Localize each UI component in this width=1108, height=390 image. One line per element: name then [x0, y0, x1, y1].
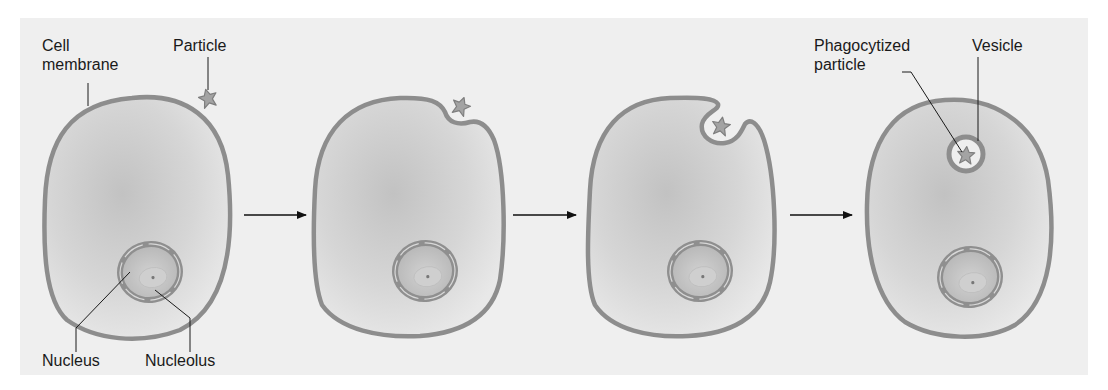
label-phagocytized-particle: Phagocytized particle: [814, 36, 910, 74]
cell-stage-3: [588, 98, 775, 337]
label-line: Cell: [42, 36, 118, 55]
label-nucleus: Nucleus: [42, 351, 100, 370]
particle-icon: [197, 87, 219, 109]
cell-stage-2: [314, 94, 504, 336]
phagocytosis-diagram: [0, 0, 1108, 390]
label-particle: Particle: [173, 36, 226, 55]
label-vesicle: Vesicle: [972, 36, 1023, 55]
cell-stage-4: [867, 57, 1052, 337]
label-line: Phagocytized: [814, 36, 910, 55]
cell-membrane: [44, 97, 230, 339]
label-nucleolus: Nucleolus: [145, 351, 215, 370]
label-line: membrane: [42, 55, 118, 74]
label-line: particle: [814, 55, 910, 74]
cell-membrane: [588, 98, 775, 337]
particle-icon: [711, 116, 732, 137]
cell-membrane: [314, 98, 504, 336]
cell-stage-1: [44, 57, 230, 352]
label-cell-membrane: Cell membrane: [42, 36, 118, 74]
particle-icon: [449, 94, 472, 117]
